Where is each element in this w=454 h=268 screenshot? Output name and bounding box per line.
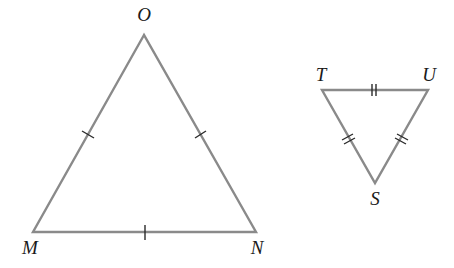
vertex-label-n: N [250,237,265,258]
vertex-label-m: M [21,237,39,258]
triangle-mno: O M N [21,4,265,258]
triangle-mno-outline [33,35,256,232]
vertex-label-u: U [422,64,437,85]
triangle-stu: T U S [316,64,437,209]
triangle-stu-outline [322,90,428,183]
vertex-label-s: S [370,188,380,209]
vertex-label-o: O [137,4,151,25]
diagram-canvas: O M N T U S [0,0,454,268]
vertex-label-t: T [316,64,328,85]
